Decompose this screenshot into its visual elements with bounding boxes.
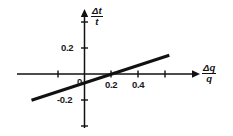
x-axis-arrow [192,70,200,78]
chart-figure: 0.2 -0.2 0 0.2 0.4 Δt t Δq q [0,0,233,136]
origin-label: 0 [77,77,82,87]
y-tick-label-positive: 0.2 [61,43,73,53]
y-tick-label-negative: -0.2 [57,95,72,105]
x-axis-label-denominator: q [202,74,216,84]
y-axis-arrow [81,9,88,17]
x-axis-label-fraction: Δq q [202,63,216,84]
x-tick-label-first: 0.2 [105,80,117,90]
y-axis-group [81,9,88,128]
data-line-group [32,55,170,100]
plot-area [0,0,233,136]
y-axis-label-denominator: t [91,17,103,27]
y-axis-label: Δt t [91,6,103,27]
x-axis-label: Δq q [202,63,216,84]
x-tick-label-second: 0.4 [132,80,144,90]
data-line-series-1 [32,55,170,100]
y-axis-label-fraction: Δt t [91,6,103,27]
